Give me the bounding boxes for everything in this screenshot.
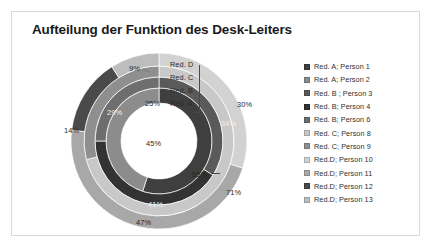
legend-item-label: Red. A; Person 1 (314, 62, 370, 71)
ring-label-leader-foot (194, 112, 200, 113)
data-label-71: 71% (226, 188, 241, 197)
legend-item[interactable]: Red.D; Person 13 (304, 193, 416, 206)
legend-item-label: Red. C; Person 9 (314, 142, 371, 151)
legend-item-label: Red. B; Person 4 (314, 102, 370, 111)
legend-item-label: Red. B ; Person 3 (314, 89, 372, 98)
legend-item-label: Red. B; Person 6 (314, 115, 370, 124)
ring-label-red-c: Red. C (170, 73, 193, 82)
legend-swatch-icon (304, 197, 310, 203)
legend-item-label: Red.D; Person 11 (314, 169, 372, 178)
data-label-9: 9% (129, 64, 140, 73)
data-label-45: 45% (146, 139, 161, 148)
ring-label-leader-line (199, 65, 200, 113)
legend-swatch-icon (304, 157, 310, 163)
data-label-25: 25% (145, 99, 160, 108)
legend-item[interactable]: Red. C; Person 9 (304, 140, 416, 153)
data-label-41: 41% (148, 200, 163, 209)
data-label-30: 30% (237, 100, 252, 109)
legend-item-label: Red.D; Person 13 (314, 195, 373, 204)
legend-swatch-icon (304, 117, 310, 123)
legend-item[interactable]: Red. B; Person 4 (304, 100, 416, 113)
legend-item-label: Red.D; Person 12 (314, 182, 373, 191)
chart-title: Aufteilung der Funktion des Desk-Leiters (12, 22, 312, 38)
data-label-47: 47% (136, 218, 151, 227)
data-label-34: 34% (221, 119, 236, 128)
chart-frame: Aufteilung der Funktion des Desk-Leiters… (11, 11, 420, 236)
legend-swatch-icon (304, 130, 310, 136)
donut-chart-plot-area[interactable]: Red. D Red. C Red. B Red. A 9% 30% 25% 3… (44, 45, 274, 230)
legend-swatch-icon (304, 143, 310, 149)
legend-swatch-icon (304, 90, 310, 96)
legend-item[interactable]: Red. A; Person 1 (304, 60, 416, 73)
ring-label-red-a: Red. A (170, 99, 193, 108)
legend-swatch-icon (304, 183, 310, 189)
data-label-leader-55 (211, 173, 220, 174)
legend-swatch-icon (304, 64, 310, 70)
legend-swatch-icon (304, 170, 310, 176)
legend-item-label: Red. C; Person 8 (314, 129, 371, 138)
ring-label-red-d: Red. D (170, 60, 193, 69)
ring-label-red-b: Red. B (170, 86, 193, 95)
data-label-14: 14% (64, 126, 79, 135)
legend-item-label: Red. A; Person 2 (314, 75, 370, 84)
legend-item[interactable]: Red. A; Person 2 (304, 73, 416, 86)
data-label-29: 29% (107, 108, 122, 117)
legend-item[interactable]: Red.D; Person 12 (304, 180, 416, 193)
legend-item[interactable]: Red. C; Person 8 (304, 126, 416, 139)
legend-item-label: Red.D; Person 10 (314, 155, 373, 164)
data-label-55: 55% (192, 170, 207, 179)
chart-legend: Red. A; Person 1Red. A; Person 2Red. B ;… (304, 60, 416, 206)
legend-swatch-icon (304, 77, 310, 83)
legend-item[interactable]: Red. B ; Person 3 (304, 87, 416, 100)
legend-swatch-icon (304, 104, 310, 110)
legend-item[interactable]: Red.D; Person 10 (304, 153, 416, 166)
legend-item[interactable]: Red.D; Person 11 (304, 166, 416, 179)
legend-item[interactable]: Red. B; Person 6 (304, 113, 416, 126)
